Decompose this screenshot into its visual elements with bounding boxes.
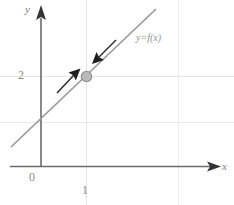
equilibrium-point <box>81 71 91 81</box>
y-axis-label: y <box>25 4 30 15</box>
origin-label: 0 <box>29 171 35 183</box>
y-tick-label-2: 2 <box>18 69 24 81</box>
arrow-lower-left <box>57 69 81 94</box>
y-axis <box>36 5 46 167</box>
curve-label: y=f(x) <box>136 33 161 43</box>
grid-lines <box>0 0 234 205</box>
arrow-upper-right <box>92 40 116 64</box>
x-axis-label: x <box>222 161 227 172</box>
graph-canvas <box>0 0 234 205</box>
graph-figure: y x 2 0 1 y=f(x) <box>0 0 234 205</box>
x-tick-label-1: 1 <box>82 184 88 196</box>
y-axis-arrowhead <box>36 5 46 20</box>
